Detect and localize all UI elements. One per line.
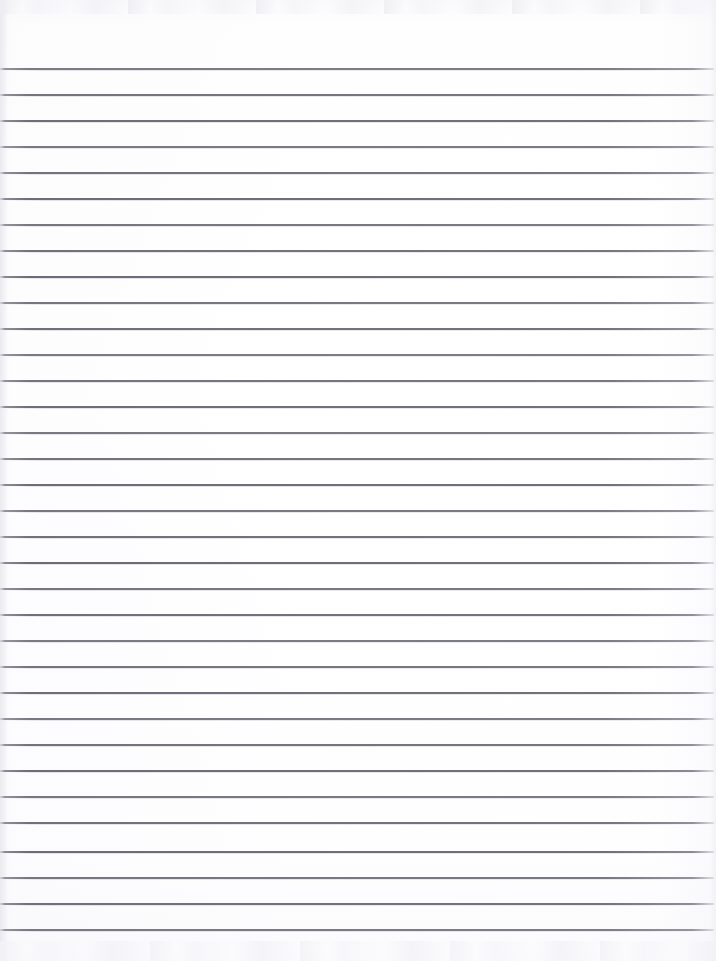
- ruled-line: [0, 458, 714, 460]
- ruled-line: [0, 822, 714, 824]
- ruled-line: [0, 770, 714, 772]
- ruled-line: [0, 640, 714, 642]
- ruled-line: [0, 224, 714, 226]
- ruled-line: [0, 562, 714, 564]
- ruled-line: [0, 432, 714, 434]
- scan-noise-band-bottom: [0, 941, 716, 961]
- ruled-line: [0, 718, 714, 720]
- ruled-line: [0, 877, 714, 879]
- ruled-line: [0, 276, 714, 278]
- scan-noise-band-top: [0, 0, 716, 14]
- ruled-line: [0, 510, 714, 512]
- ruled-line: [0, 903, 714, 905]
- ruled-line: [0, 146, 714, 148]
- ruled-line: [0, 354, 714, 356]
- ruled-line: [0, 120, 714, 122]
- ruled-line: [0, 250, 714, 252]
- ruled-line: [0, 380, 714, 382]
- scanned-page: [0, 0, 716, 961]
- ruled-line: [0, 796, 714, 798]
- ruled-line: [0, 536, 714, 538]
- right-edge-shadow: [710, 0, 716, 961]
- ruled-line: [0, 94, 714, 96]
- ruled-line: [0, 851, 714, 853]
- ruled-line: [0, 614, 714, 616]
- paper-surface: [0, 0, 716, 961]
- ruled-line: [0, 692, 714, 694]
- ruled-line: [0, 484, 714, 486]
- ruled-line: [0, 68, 714, 70]
- ruled-line: [0, 744, 714, 746]
- ruled-line: [0, 406, 714, 408]
- left-edge-shadow: [0, 0, 8, 961]
- ruled-line: [0, 328, 714, 330]
- ruled-line: [0, 666, 714, 668]
- ruled-line: [0, 198, 714, 200]
- ruled-line: [0, 172, 714, 174]
- ruled-line: [0, 929, 714, 931]
- ruled-line: [0, 588, 714, 590]
- ruled-line: [0, 302, 714, 304]
